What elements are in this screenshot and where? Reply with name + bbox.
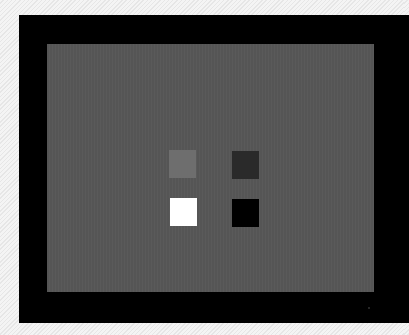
monitor-screen: [47, 44, 374, 292]
power-led-icon: [368, 307, 370, 309]
light-gray-patch: [169, 150, 196, 178]
dark-gray-patch: [232, 151, 259, 179]
black-patch: [232, 199, 259, 227]
white-patch: [170, 198, 197, 226]
